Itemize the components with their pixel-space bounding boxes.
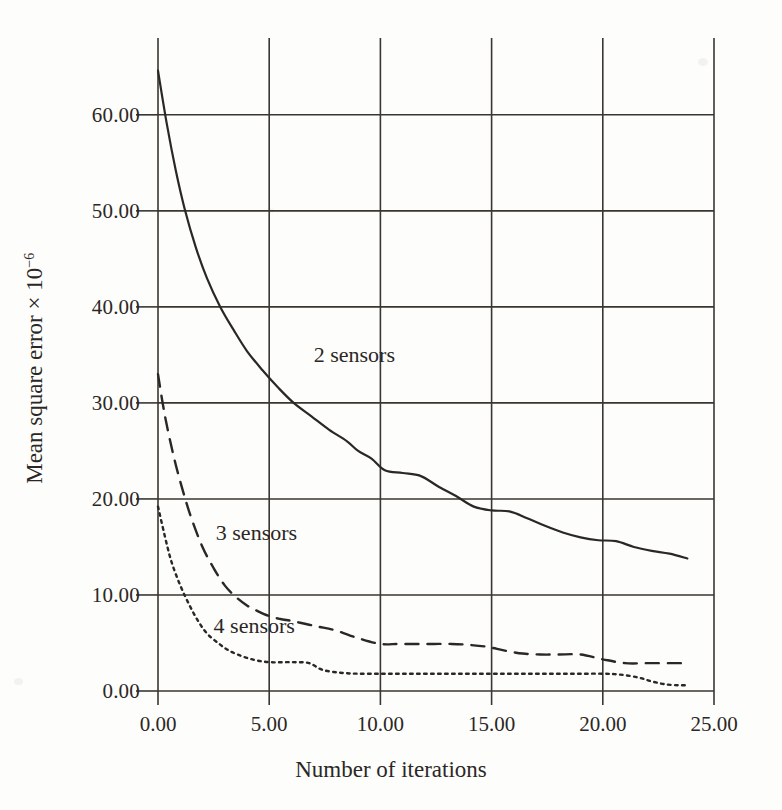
y-tick-label: 0.00 [102, 679, 140, 704]
x-tick-label: 0.00 [140, 712, 177, 737]
x-tick-label: 5.00 [251, 712, 288, 737]
y-tick-label: 40.00 [92, 294, 140, 319]
x-axis-title: Number of iterations [0, 757, 782, 783]
y-axis-exponent: −6 [22, 253, 37, 268]
y-tick-label: 20.00 [92, 486, 140, 511]
x-tick-label: 25.00 [690, 712, 737, 737]
y-tick-label: 60.00 [92, 102, 140, 127]
x-axis-tick-labels: 0.005.0010.0015.0020.0025.00 [0, 712, 782, 742]
series-label-4-sensors: 4 sensors [214, 613, 295, 639]
y-tick-label: 50.00 [92, 198, 140, 223]
series-line-2-sensors [158, 71, 687, 559]
series-label-3-sensors: 3 sensors [216, 520, 297, 546]
y-tick-label: 10.00 [92, 582, 140, 607]
series-lines [158, 38, 714, 691]
x-tick-label: 15.00 [468, 712, 515, 737]
plot-area [158, 38, 714, 691]
x-tick-label: 20.00 [579, 712, 626, 737]
x-tick-label: 10.00 [357, 712, 404, 737]
y-axis-title: Mean square error × 10−6 [22, 118, 49, 618]
y-axis-title-text: Mean square error × 10 [22, 268, 47, 484]
y-tick-label: 30.00 [92, 390, 140, 415]
figure-canvas: 0.0010.0020.0030.0040.0050.0060.00 0.005… [0, 0, 782, 810]
series-label-2-sensors: 2 sensors [314, 342, 395, 368]
